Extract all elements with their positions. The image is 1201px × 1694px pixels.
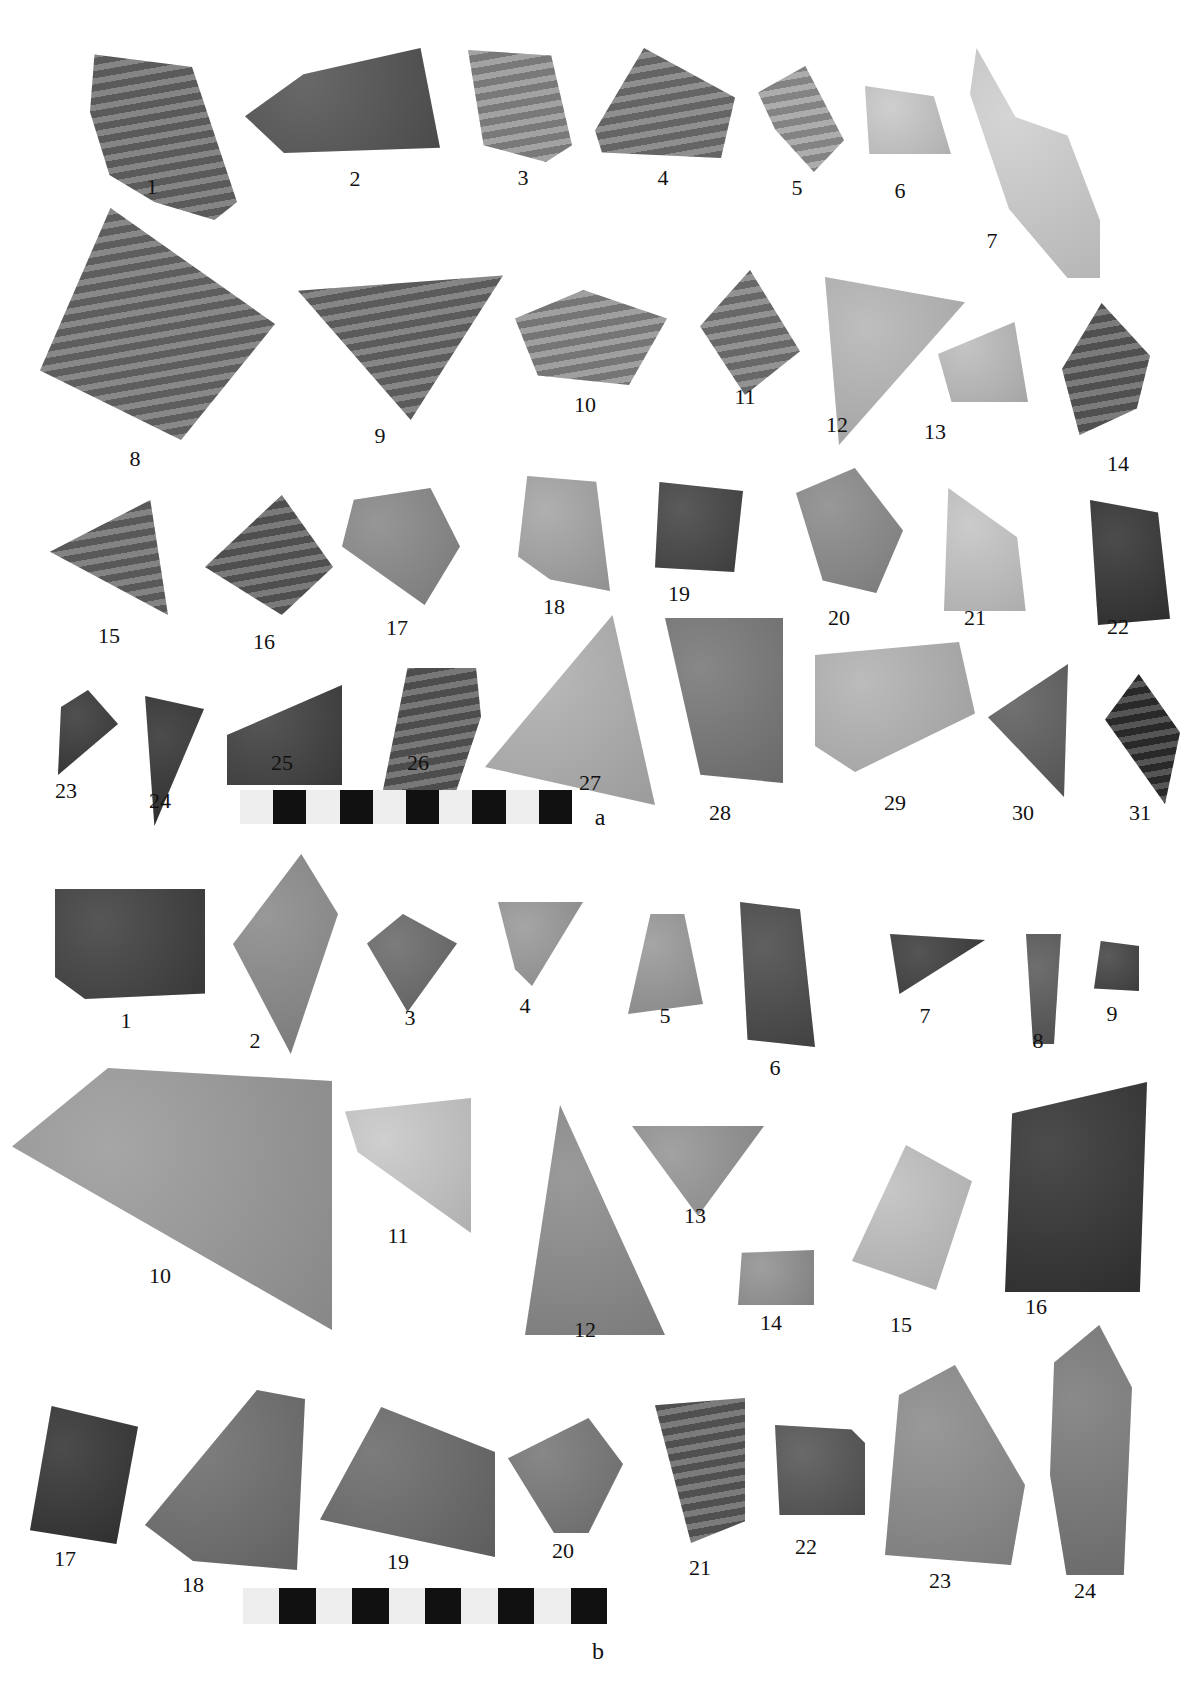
sherd-b-18 xyxy=(145,1390,305,1570)
sherd-b-9 xyxy=(1094,941,1139,991)
sherd-number-label: 16 xyxy=(1025,1296,1047,1318)
panel-label-a: a xyxy=(595,804,606,831)
sherd-number-label: 9 xyxy=(375,425,386,447)
sherd-a-18 xyxy=(518,476,610,591)
sherd-number-label: 23 xyxy=(55,780,77,802)
sherd-a-31 xyxy=(1105,674,1180,804)
sherd-number-label: 9 xyxy=(1107,1003,1118,1025)
sherd-number-label: 6 xyxy=(770,1057,781,1079)
sherd-number-label: 21 xyxy=(964,607,986,629)
sherd-a-14 xyxy=(1062,303,1150,435)
sherd-a-28 xyxy=(665,618,783,783)
sherd-number-label: 2 xyxy=(350,168,361,190)
sherd-a-11 xyxy=(700,270,800,395)
sherd-number-label: 15 xyxy=(890,1314,912,1336)
sherd-b-11 xyxy=(345,1098,471,1233)
sherd-number-label: 1 xyxy=(147,176,158,198)
sherd-a-16 xyxy=(205,495,333,615)
sherd-a-27 xyxy=(485,615,655,805)
sherd-number-label: 1 xyxy=(121,1010,132,1032)
sherd-number-label: 13 xyxy=(684,1205,706,1227)
sherd-number-label: 18 xyxy=(543,596,565,618)
sherd-a-4 xyxy=(595,48,735,158)
sherd-number-label: 29 xyxy=(884,792,906,814)
sherd-number-label: 28 xyxy=(709,802,731,824)
sherd-a-26 xyxy=(383,668,481,790)
sherd-b-21 xyxy=(655,1398,745,1543)
sherd-a-2 xyxy=(245,48,440,153)
scale-bar xyxy=(243,1588,607,1624)
sherd-number-label: 3 xyxy=(518,167,529,189)
sherd-b-8 xyxy=(1026,934,1061,1044)
sherd-number-label: 18 xyxy=(182,1574,204,1596)
sherd-number-label: 15 xyxy=(98,625,120,647)
sherd-a-17 xyxy=(342,488,460,605)
panel-label-b: b xyxy=(592,1638,604,1665)
sherd-number-label: 12 xyxy=(826,414,848,436)
sherd-b-20 xyxy=(508,1418,623,1533)
sherd-a-8 xyxy=(40,208,275,440)
sherd-b-15 xyxy=(852,1145,972,1290)
sherd-number-label: 20 xyxy=(552,1540,574,1562)
sherd-number-label: 7 xyxy=(987,230,998,252)
sherd-b-4 xyxy=(498,902,583,986)
sherd-number-label: 8 xyxy=(1033,1030,1044,1052)
sherd-a-20 xyxy=(796,468,903,593)
sherd-b-17 xyxy=(30,1406,138,1544)
sherd-number-label: 3 xyxy=(405,1007,416,1029)
sherd-b-10 xyxy=(12,1068,332,1330)
sherd-number-label: 17 xyxy=(54,1548,76,1570)
sherd-b-14 xyxy=(738,1250,814,1305)
sherd-number-label: 19 xyxy=(668,583,690,605)
sherd-a-23 xyxy=(58,690,118,775)
sherd-a-21 xyxy=(944,488,1030,611)
sherd-a-9 xyxy=(298,268,503,420)
sherd-a-6 xyxy=(865,86,951,154)
sherd-a-10 xyxy=(515,290,667,385)
sherd-number-label: 23 xyxy=(929,1570,951,1592)
sherd-b-5 xyxy=(628,914,703,1014)
sherd-a-22 xyxy=(1090,500,1170,625)
sherd-number-label: 19 xyxy=(387,1551,409,1573)
sherd-a-1 xyxy=(87,40,237,220)
sherd-b-6 xyxy=(740,902,815,1047)
scale-bar xyxy=(240,790,572,824)
sherd-a-30 xyxy=(988,664,1068,797)
sherd-number-label: 8 xyxy=(130,448,141,470)
sherd-b-16 xyxy=(1005,1082,1147,1292)
sherd-number-label: 17 xyxy=(386,617,408,639)
sherd-number-label: 10 xyxy=(574,394,596,416)
sherd-number-label: 5 xyxy=(792,177,803,199)
sherd-number-label: 13 xyxy=(924,421,946,443)
sherd-number-label: 20 xyxy=(828,607,850,629)
sherd-a-15 xyxy=(50,500,168,615)
sherd-number-label: 11 xyxy=(734,386,755,408)
sherd-number-label: 4 xyxy=(658,167,669,189)
sherd-b-7 xyxy=(890,934,985,994)
sherd-a-3 xyxy=(468,50,572,162)
sherd-b-23 xyxy=(885,1365,1025,1565)
sherd-number-label: 6 xyxy=(895,180,906,202)
sherd-number-label: 11 xyxy=(387,1225,408,1247)
sherd-b-22 xyxy=(775,1425,865,1515)
sherd-number-label: 26 xyxy=(407,752,429,774)
sherd-number-label: 7 xyxy=(920,1005,931,1027)
sherd-number-label: 14 xyxy=(760,1312,782,1334)
sherd-number-label: 10 xyxy=(149,1265,171,1287)
sherd-number-label: 25 xyxy=(271,752,293,774)
sherd-b-3 xyxy=(367,914,457,1012)
sherd-number-label: 22 xyxy=(795,1536,817,1558)
sherd-a-19 xyxy=(655,482,743,572)
sherd-number-label: 4 xyxy=(520,995,531,1017)
sherd-b-19 xyxy=(320,1407,495,1557)
sherd-number-label: 27 xyxy=(579,772,601,794)
sherd-number-label: 16 xyxy=(253,631,275,653)
sherd-number-label: 12 xyxy=(574,1319,596,1341)
sherd-number-label: 30 xyxy=(1012,802,1034,824)
sherd-number-label: 31 xyxy=(1129,802,1151,824)
sherd-a-29 xyxy=(815,642,975,772)
sherd-number-label: 24 xyxy=(1074,1580,1096,1602)
sherd-number-label: 21 xyxy=(689,1557,711,1579)
sherd-b-24 xyxy=(1050,1325,1132,1575)
sherd-a-13 xyxy=(938,322,1028,402)
